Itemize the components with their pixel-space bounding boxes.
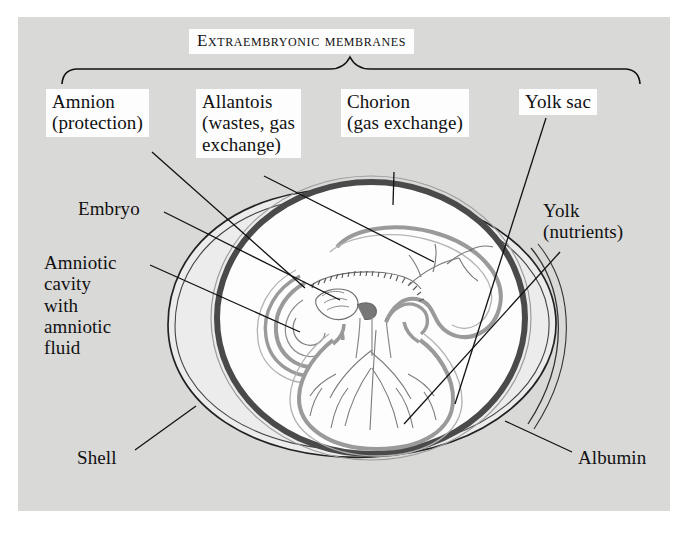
label-chorion: Chorion (gas exchange): [341, 89, 469, 137]
label-embryo: Embryo: [78, 198, 140, 219]
label-albumin: Albumin: [578, 447, 646, 468]
label-shell: Shell: [77, 447, 117, 468]
label-yolk-sac: Yolk sac: [519, 89, 597, 115]
label-yolk: Yolk (nutrients): [543, 200, 623, 243]
label-allantois: Allantois (wastes, gas exchange): [196, 89, 301, 158]
label-amnion: Amnion (protection): [46, 89, 149, 137]
figure-title: Extraembryonic membranes: [189, 29, 414, 54]
egg-anatomy-figure: Extraembryonic membranes Amnion (protect…: [0, 0, 686, 545]
label-amniotic-cavity: Amniotic cavity with amniotic fluid: [44, 252, 117, 358]
